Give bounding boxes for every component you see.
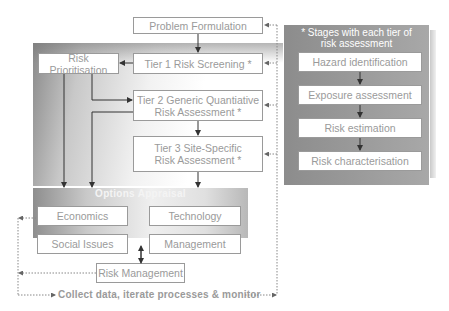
connector-arrows: [0, 0, 449, 311]
